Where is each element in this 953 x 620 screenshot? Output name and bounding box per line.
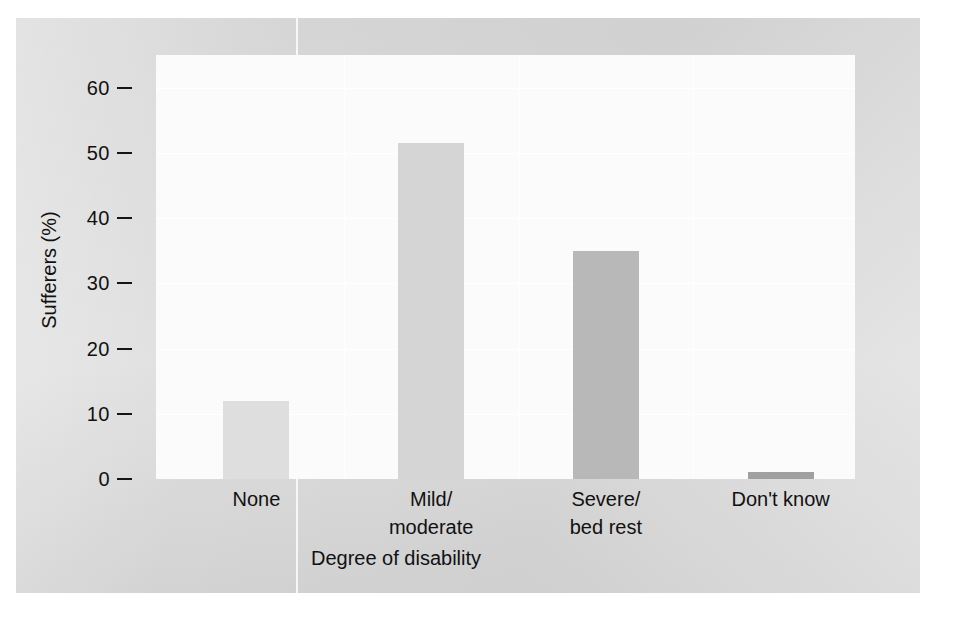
x-tick-label-2: Severe/ bed rest: [570, 486, 642, 541]
bar-3: [748, 472, 814, 479]
y-tick-mark-10: [117, 413, 132, 415]
y-tick-label-10: 10: [87, 402, 110, 425]
y-tick-mark-40: [117, 217, 132, 219]
y-axis: 0102030405060 Sufferers (%): [16, 18, 156, 593]
bar-2: [573, 251, 639, 479]
y-tick-label-60: 60: [87, 76, 110, 99]
gridline-30: [156, 283, 855, 284]
vertical-gridline-3: [693, 55, 694, 479]
bar-1: [398, 143, 464, 479]
vertical-gridline-1: [344, 55, 345, 479]
gridline-60: [156, 88, 855, 89]
y-tick-mark-50: [117, 152, 132, 154]
y-tick-label-30: 30: [87, 272, 110, 295]
y-tick-mark-30: [117, 282, 132, 284]
y-tick-label-50: 50: [87, 141, 110, 164]
y-tick-label-20: 20: [87, 337, 110, 360]
y-tick-mark-20: [117, 348, 132, 350]
y-tick-mark-60: [117, 87, 132, 89]
x-axis-title: Degree of disability: [311, 547, 481, 570]
x-tick-label-0: None: [232, 486, 280, 514]
y-tick-label-40: 40: [87, 207, 110, 230]
gridline-40: [156, 218, 855, 219]
gridline-20: [156, 349, 855, 350]
y-tick-label-0: 0: [98, 468, 110, 491]
plot-area: [156, 55, 855, 479]
y-axis-title: Sufferers (%): [38, 211, 61, 328]
y-tick-mark-0: [117, 478, 132, 480]
x-tick-label-3: Don't know: [731, 486, 829, 514]
gridline-50: [156, 153, 855, 154]
vertical-gridline-2: [519, 55, 520, 479]
figure-panel: 0102030405060 Sufferers (%) NoneMild/ mo…: [16, 18, 920, 593]
x-tick-label-1: Mild/ moderate: [389, 486, 474, 541]
bar-0: [223, 401, 289, 479]
